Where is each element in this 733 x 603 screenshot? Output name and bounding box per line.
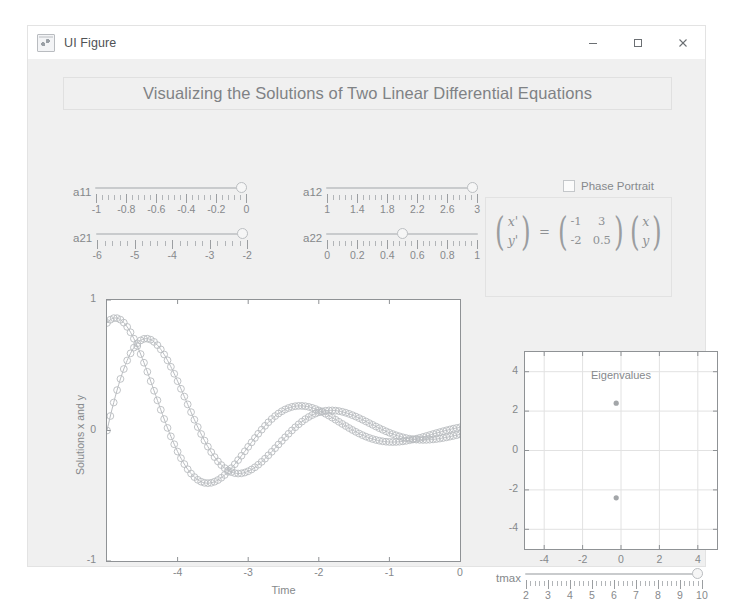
slider-tick-major — [636, 580, 637, 589]
slider-track-tmax[interactable] — [525, 573, 703, 575]
slider-tick-minor — [381, 241, 382, 246]
matrix-a11: -1 — [570, 213, 581, 231]
slider-ticklabel: -5 — [130, 249, 139, 261]
slider-tick-minor — [684, 581, 685, 586]
slider-tick-minor — [351, 195, 352, 200]
slider-ticklabel: -0.4 — [177, 203, 195, 215]
slider-tick-minor — [240, 241, 241, 246]
slider-thumb-a21[interactable] — [237, 228, 248, 239]
slider-tick-minor — [157, 241, 158, 246]
close-icon[interactable] — [660, 26, 705, 59]
slider-ticklabel: -6 — [93, 249, 102, 261]
slider-tick-minor — [369, 195, 370, 200]
slider-tick-minor — [240, 195, 241, 200]
slider-tick-minor — [363, 241, 364, 246]
eig-x-tick-label: 2 — [656, 553, 662, 565]
slider-tick-major — [477, 240, 478, 249]
slider-track-a11[interactable] — [95, 187, 247, 189]
slider-a11[interactable]: -1-0.8-0.6-0.4-0.20 — [95, 181, 247, 217]
y-axis-tick-label: -1 — [87, 553, 96, 565]
slider-tick-minor — [210, 195, 211, 200]
slider-ticklabels-a12: 11.41.82.22.63 — [326, 203, 478, 216]
slider-ticks-a12 — [326, 194, 478, 203]
slider-label-a11: a11 — [73, 181, 91, 198]
slider-tick-minor — [645, 581, 646, 586]
slider-tick-minor — [232, 241, 233, 246]
eigenvalue-point — [614, 401, 619, 406]
slider-thumb-a22[interactable] — [397, 228, 408, 239]
slider-tick-major — [357, 194, 358, 203]
slider-group-tmax[interactable]: tmax2345678910 — [496, 567, 703, 603]
coefficient-matrix: -1 3 -2 0.5 — [570, 213, 611, 250]
x-axis-tick-label: -4 — [173, 566, 182, 578]
slider-tick-minor — [225, 241, 226, 246]
eig-y-tick-label: -4 — [509, 521, 518, 533]
slider-tick-minor — [228, 195, 229, 200]
slider-tmax[interactable]: 2345678910 — [525, 567, 703, 603]
slider-a12[interactable]: 11.41.82.22.63 — [326, 181, 478, 217]
maximize-icon[interactable] — [615, 26, 660, 59]
slider-tick-major — [680, 580, 681, 589]
slider-tick-minor — [605, 581, 606, 586]
rhs-x: x — [642, 212, 649, 231]
slider-tick-major — [247, 240, 248, 249]
slider-tick-minor — [165, 241, 166, 246]
slider-tick-minor — [610, 581, 611, 586]
lhs-x: x' — [508, 212, 519, 231]
x-axis-label: Time — [271, 584, 295, 596]
slider-ticklabel: 0.6 — [410, 249, 425, 261]
slider-tick-minor — [217, 241, 218, 246]
slider-tick-minor — [667, 581, 668, 586]
ui-figure-canvas: Visualizing the Solutions of Two Linear … — [28, 59, 705, 566]
slider-tick-major — [548, 580, 549, 589]
solutions-plot[interactable] — [106, 299, 461, 562]
slider-tick-major — [172, 240, 173, 249]
slider-ticklabel: 7 — [633, 589, 639, 601]
slider-ticks-a11 — [95, 194, 247, 203]
slider-group-a21[interactable]: a21-6-5-4-3-2 — [73, 227, 248, 263]
slider-track-a12[interactable] — [326, 187, 478, 189]
slider-tick-minor — [676, 581, 677, 586]
slider-group-a22[interactable]: a2200.20.40.60.81 — [303, 227, 478, 263]
slider-ticklabel: 2 — [523, 589, 529, 601]
slider-tick-major — [614, 580, 615, 589]
slider-tick-minor — [351, 241, 352, 246]
slider-tick-major — [135, 240, 136, 249]
slider-a22[interactable]: 00.20.40.60.81 — [326, 227, 478, 263]
slider-thumb-a12[interactable] — [467, 182, 478, 193]
slider-thumb-tmax[interactable] — [692, 568, 703, 579]
slider-tick-minor — [459, 241, 460, 246]
eigenvalue-point — [614, 495, 619, 500]
slider-ticklabel: -0.6 — [147, 203, 165, 215]
slider-tick-minor — [453, 195, 454, 200]
slider-tick-minor — [596, 581, 597, 586]
slider-ticklabel: 4 — [567, 589, 573, 601]
slider-group-a11[interactable]: a11-1-0.8-0.6-0.4-0.20 — [73, 181, 247, 217]
phase-portrait-row[interactable]: Phase Portrait — [563, 180, 654, 192]
y-axis-label: Solutions x and y — [74, 395, 86, 475]
slider-tick-minor — [162, 195, 163, 200]
slider-ticklabel: -0.2 — [207, 203, 225, 215]
slider-a21[interactable]: -6-5-4-3-2 — [96, 227, 248, 263]
slider-tick-major — [96, 194, 97, 203]
minimize-icon[interactable] — [570, 26, 615, 59]
slider-ticklabel: 0 — [324, 249, 330, 261]
slider-tick-minor — [150, 241, 151, 246]
slider-tick-minor — [405, 195, 406, 200]
y-axis-tick-label: 0 — [90, 423, 96, 435]
window-controls — [570, 26, 705, 59]
slider-ticklabels-a22: 00.20.40.60.81 — [326, 249, 478, 262]
slider-tick-minor — [150, 195, 151, 200]
slider-tick-major — [702, 580, 703, 589]
slider-tick-minor — [114, 195, 115, 200]
slider-tick-minor — [441, 241, 442, 246]
slider-tick-minor — [375, 241, 376, 246]
phase-portrait-checkbox[interactable] — [563, 180, 575, 192]
slider-thumb-a11[interactable] — [236, 182, 247, 193]
lhs-paren-close: ) — [521, 214, 531, 248]
slider-group-a12[interactable]: a1211.41.82.22.63 — [303, 181, 478, 217]
slider-track-a21[interactable] — [96, 233, 248, 235]
slider-tick-major — [126, 194, 127, 203]
slider-ticklabel: 5 — [589, 589, 595, 601]
slider-tick-minor — [535, 581, 536, 586]
